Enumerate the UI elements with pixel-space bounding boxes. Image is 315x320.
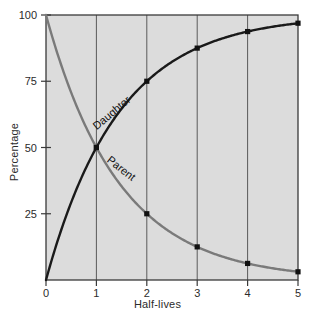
y-tick-label-50: 50	[25, 142, 37, 154]
data-point-daughter-5	[295, 21, 300, 26]
data-point-parent-4	[245, 261, 250, 266]
data-point-parent-1	[94, 145, 99, 150]
data-point-parent-2	[144, 211, 149, 216]
y-axis-title: Percentage	[8, 102, 20, 202]
data-point-daughter-2	[144, 79, 149, 84]
y-tick-label-25: 25	[25, 208, 37, 220]
data-point-daughter-4	[245, 29, 250, 34]
data-point-daughter-3	[195, 46, 200, 51]
y-tick-labels: 100 75 50 25	[19, 9, 37, 220]
data-point-parent-3	[195, 244, 200, 249]
x-axis-title: Half-lives	[0, 298, 315, 310]
chart-figure: 100 75 50 25 0 1 2 3 4 5 DaughterParent …	[0, 0, 315, 320]
x-tick-marks	[46, 280, 298, 286]
half-life-decay-chart: 100 75 50 25 0 1 2 3 4 5 DaughterParent	[0, 0, 315, 320]
y-tick-label-75: 75	[25, 75, 37, 87]
data-point-parent-5	[295, 269, 300, 274]
plot-background	[46, 15, 298, 280]
y-tick-label-100: 100	[19, 9, 37, 21]
